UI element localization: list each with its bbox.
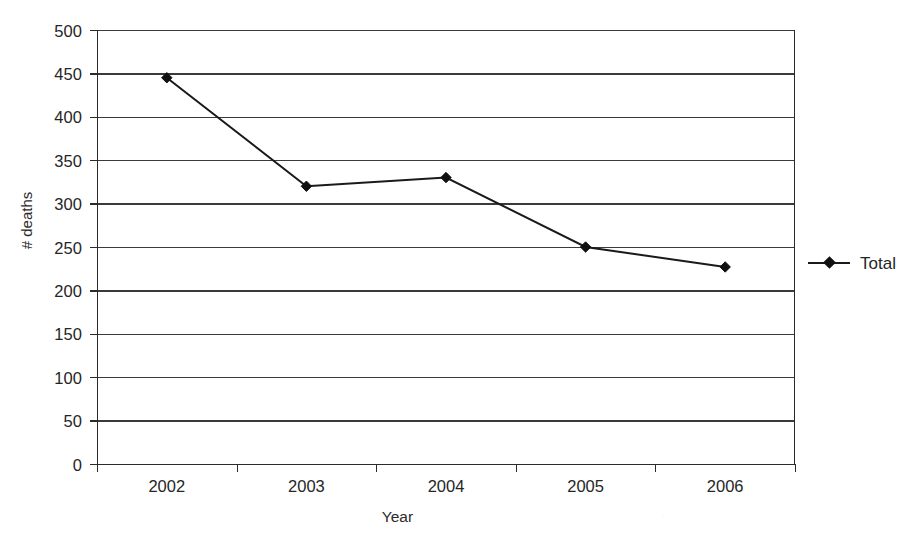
x-axis-tick-label-text: 2003 xyxy=(261,478,351,495)
x-axis-tick-label-text: 2004 xyxy=(401,478,491,495)
chart-legend: Total xyxy=(808,252,896,274)
line-chart: 500450400350300250200150100500 200220032… xyxy=(0,0,909,543)
x-axis-tick-label-text: 2002 xyxy=(122,478,212,495)
legend-item-label: Total xyxy=(860,255,896,272)
x-axis-tick-label-text: 2006 xyxy=(680,478,770,495)
x-axis-title: Year xyxy=(0,509,795,525)
y-axis-title: # deaths xyxy=(19,176,34,266)
x-axis-tick-labels: 20022003200420052006 xyxy=(0,0,909,543)
legend-item-total: Total xyxy=(808,252,896,274)
x-axis-tick-label-text: 2005 xyxy=(541,478,631,495)
legend-line-diamond-icon xyxy=(808,256,850,270)
